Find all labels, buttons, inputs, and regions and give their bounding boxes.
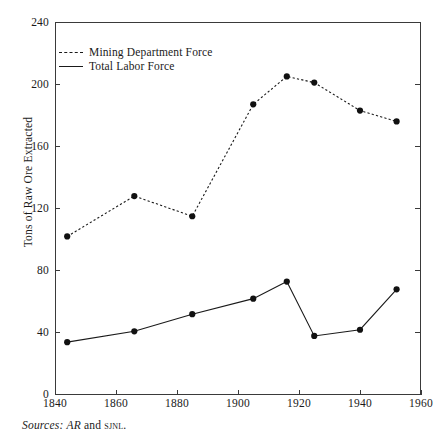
y-tick-mark-80	[55, 270, 60, 271]
x-tick-mark-1880	[177, 390, 178, 395]
x-tick-mark-1860	[116, 390, 117, 395]
y-tick-label-40: 40	[37, 327, 49, 339]
source-note-ref1: AR	[67, 419, 81, 431]
chart-figure: 0 40 80 120 160 200 240 1840 1860 1880 1…	[0, 0, 441, 442]
source-note-terminator: .	[123, 419, 126, 431]
y-tick-label-80: 80	[37, 265, 49, 277]
x-tick-mark-1900	[238, 390, 239, 395]
x-tick-mark-1960	[421, 390, 422, 395]
legend: Mining Department Force Total Labor Forc…	[59, 45, 213, 73]
x-tick-mark-1840	[55, 390, 56, 395]
source-note: Sources: AR and sjnl.	[22, 419, 126, 431]
y-tick-mark-right-200	[415, 84, 420, 85]
x-tick-label-1940: 1940	[348, 397, 372, 409]
y-tick-mark-240	[55, 22, 60, 23]
y-tick-mark-40	[55, 332, 60, 333]
legend-swatch-solid-icon	[59, 66, 83, 67]
y-tick-mark-right-80	[415, 270, 420, 271]
legend-entry-mining-department-force: Mining Department Force	[59, 45, 213, 59]
legend-swatch-dashed-icon	[59, 52, 83, 53]
legend-label-mining-department-force: Mining Department Force	[89, 45, 213, 59]
legend-label-total-labor-force: Total Labor Force	[89, 59, 174, 73]
x-tick-mark-1920	[299, 390, 300, 395]
y-tick-mark-200	[55, 84, 60, 85]
chart-title	[0, 0, 441, 4]
y-tick-label-240: 240	[31, 17, 49, 29]
source-note-conjunction: and	[84, 419, 101, 431]
x-tick-label-1920: 1920	[287, 397, 311, 409]
y-axis-title: Tons of Raw Ore Extracted	[22, 82, 34, 282]
x-tick-label-1860: 1860	[104, 397, 128, 409]
y-tick-mark-160	[55, 146, 60, 147]
plot-area	[55, 22, 421, 395]
source-note-label: Sources:	[22, 419, 63, 431]
y-tick-mark-right-40	[415, 332, 420, 333]
source-note-ref2: sjnl	[104, 419, 123, 431]
x-tick-label-1900: 1900	[226, 397, 250, 409]
legend-entry-total-labor-force: Total Labor Force	[59, 59, 213, 73]
x-tick-label-1840: 1840	[43, 397, 67, 409]
x-tick-label-1880: 1880	[165, 397, 189, 409]
x-tick-label-1960: 1960	[409, 397, 433, 409]
y-tick-mark-right-120	[415, 208, 420, 209]
x-tick-mark-1940	[360, 390, 361, 395]
y-tick-mark-120	[55, 208, 60, 209]
y-tick-mark-right-160	[415, 146, 420, 147]
